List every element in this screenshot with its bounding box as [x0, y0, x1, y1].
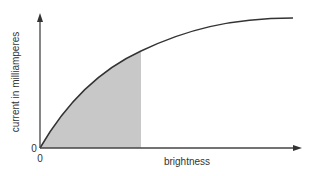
y-axis-arrow-icon — [37, 13, 43, 22]
shaded-area — [40, 51, 141, 148]
x-origin-label: 0 — [37, 153, 43, 164]
current-brightness-diagram: 0 0 brightness current in milliamperes — [0, 0, 309, 176]
x-axis-label: brightness — [164, 156, 210, 167]
y-axis-label: current in milliamperes — [10, 32, 21, 133]
x-axis-arrow-icon — [293, 145, 302, 151]
diagram-canvas: 0 0 brightness current in milliamperes — [0, 0, 309, 176]
